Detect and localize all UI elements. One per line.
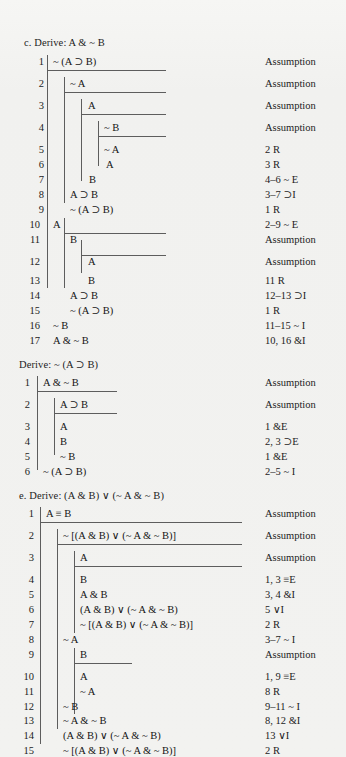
line-justification: 2–5 ~ I <box>265 465 295 479</box>
scope-rule-c-level4a <box>98 136 166 137</box>
line-justification: Assumption <box>265 648 316 662</box>
line-justification: 1, 3 ≡E <box>265 573 296 587</box>
line-number: 2 <box>8 398 30 412</box>
proof-line-row: 3 A 1 &E <box>0 420 346 434</box>
line-number: 5 <box>8 450 30 464</box>
line-justification: Assumption <box>265 233 316 247</box>
proof-line-row: 12 A Assumption <box>0 255 346 269</box>
line-formula: ~ A <box>70 77 85 91</box>
line-formula: A <box>53 218 61 232</box>
proof-line-row: 1 A & ~ B Assumption <box>0 376 346 390</box>
line-formula: ~ A <box>80 685 95 699</box>
line-formula: B <box>70 233 77 247</box>
line-formula: (A & B) ∨ (~ A & ~ B) <box>63 729 161 743</box>
line-number: 5 <box>22 143 44 157</box>
line-justification: 8 R <box>265 685 280 699</box>
line-justification: 1 R <box>265 304 280 318</box>
line-number: 7 <box>22 173 44 187</box>
line-justification: 11–15 ~ I <box>265 319 305 333</box>
line-number: 11 <box>18 233 40 247</box>
line-justification: 3 R <box>265 158 280 172</box>
line-number: 9 <box>12 648 34 662</box>
line-formula: A <box>106 158 114 172</box>
line-formula: B <box>60 435 67 449</box>
line-justification: 8, 12 &I <box>265 714 300 728</box>
proof-line-row: 3 A Assumption <box>0 99 346 113</box>
line-justification: 1 &E <box>265 450 287 464</box>
line-justification: 2, 3 ⊃E <box>265 435 299 449</box>
line-justification: 2 R <box>265 744 280 757</box>
line-justification: 2 R <box>265 143 280 157</box>
line-justification: 1, 9 ≡E <box>265 670 296 684</box>
line-justification: 1 R <box>265 203 280 217</box>
proof-line-row: 10 A 1, 9 ≡E <box>0 670 346 684</box>
line-number: 6 <box>8 465 30 479</box>
line-number: 13 <box>12 714 34 728</box>
line-formula: ~ [(A & B) ∨ (~ A & ~ B)] <box>63 529 176 543</box>
scope-rule-e-level3a <box>74 566 242 567</box>
line-number: 5 <box>12 588 34 602</box>
line-number: 13 <box>18 274 40 288</box>
proof-line-row: 14 (A & B) ∨ (~ A & ~ B) 13 ∨I <box>0 729 346 743</box>
line-number: 2 <box>12 529 34 543</box>
proof-line-row: 7 ~ [(A & B) ∨ (~ A & ~ B)] 2 R <box>0 618 346 632</box>
scope-rule-c-level3a <box>81 114 166 115</box>
proof-line-row: 1 A ≡ B Assumption <box>0 507 346 521</box>
line-formula: ~ B <box>60 450 75 464</box>
line-justification: 3–7 ~ I <box>265 633 295 647</box>
line-formula: ~ A & ~ B <box>63 714 106 728</box>
line-number: 1 <box>22 55 44 69</box>
line-formula: A & ~ B <box>53 334 89 348</box>
line-justification: 12–13 ⊃I <box>265 289 306 303</box>
line-justification: 1 &E <box>265 420 287 434</box>
proof-line-row: 13 B 11 R <box>0 274 346 288</box>
line-number: 12 <box>18 255 40 269</box>
line-formula: A ≡ B <box>46 507 71 521</box>
line-formula: ~ (A ⊃ B) <box>70 203 113 217</box>
line-number: 12 <box>12 700 34 714</box>
line-formula: (A & B) ∨ (~ A & ~ B) <box>80 603 178 617</box>
line-justification: 3–7 ⊃I <box>265 188 296 202</box>
line-number: 6 <box>22 158 44 172</box>
line-number: 15 <box>18 304 40 318</box>
scope-rule-c-level2a <box>64 92 166 93</box>
proof-line-row: 16 ~ B 11–15 ~ I <box>0 319 346 333</box>
line-formula: A & B <box>80 588 107 602</box>
line-formula: A <box>80 551 88 565</box>
line-number: 17 <box>18 334 40 348</box>
line-number: 15 <box>12 744 34 757</box>
line-justification: 2 R <box>265 618 280 632</box>
line-justification: Assumption <box>265 507 316 521</box>
line-justification: 9–11 ~ I <box>265 700 300 714</box>
line-formula: B <box>80 573 87 587</box>
proof-line-row: 15 ~ (A ⊃ B) 1 R <box>0 304 346 318</box>
line-justification: 13 ∨I <box>265 729 289 743</box>
proof-line-row: 11 ~ A 8 R <box>0 685 346 699</box>
proof-line-row: 6 (A & B) ∨ (~ A & ~ B) 5 ∨I <box>0 603 346 617</box>
scope-rule-d-level1 <box>37 391 117 392</box>
line-justification: 5 ∨I <box>265 603 284 617</box>
line-number: 1 <box>8 376 30 390</box>
scope-rule-d-level2 <box>54 413 117 414</box>
line-number: 4 <box>8 435 30 449</box>
proof-c-heading: c. Derive: A & ~ B <box>24 37 105 48</box>
proof-line-row: 12 ~ B 9–11 ~ I <box>0 700 346 714</box>
proof-line-row: 15 ~ [(A & B) ∨ (~ A & ~ B)] 2 R <box>0 744 346 757</box>
line-number: 16 <box>18 319 40 333</box>
line-formula: ~ A <box>104 143 119 157</box>
line-number: 1 <box>12 507 34 521</box>
line-number: 14 <box>18 289 40 303</box>
line-number: 4 <box>12 573 34 587</box>
proof-line-row: 3 A Assumption <box>0 551 346 565</box>
scope-rule-c-level1 <box>47 70 166 71</box>
line-formula: A ⊃ B <box>60 398 88 412</box>
line-formula: ~ A <box>63 633 78 647</box>
line-formula: A <box>88 99 96 113</box>
proof-line-row: 1 ~ (A ⊃ B) Assumption <box>0 55 346 69</box>
line-number: 8 <box>22 188 44 202</box>
line-justification: Assumption <box>265 77 316 91</box>
line-formula: ~ (A ⊃ B) <box>43 465 86 479</box>
proof-d-heading: Derive: ~ (A ⊃ B) <box>19 358 98 370</box>
line-justification: 2–9 ~ E <box>265 218 298 232</box>
line-number: 7 <box>12 618 34 632</box>
